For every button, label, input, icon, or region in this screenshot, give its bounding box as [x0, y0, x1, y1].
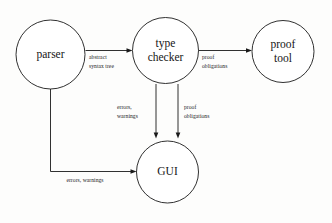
edge-label-ew-parser: errors, warnings	[66, 177, 103, 183]
node-type-checker[interactable]: type checker	[133, 18, 199, 84]
arrowhead-icon	[127, 48, 133, 53]
edge-label-ast-line1: abstract	[89, 54, 107, 60]
node-gui-label: GUI	[157, 165, 178, 177]
edge-label-abstract-syntax-tree: abstract syntax tree	[89, 54, 114, 69]
edge-label-po-tool-line2: obligations	[202, 63, 227, 69]
arrowhead-icon	[154, 133, 159, 139]
edge-parser-to-gui	[51, 89, 137, 174]
node-gui[interactable]: GUI	[137, 141, 199, 203]
edge-label-ast-line2: syntax tree	[89, 63, 114, 69]
node-proof-tool[interactable]: proof tool	[252, 21, 314, 83]
diagram-svg: parser type checker proof tool GUI abstr…	[0, 0, 332, 223]
edge-label-po-gui-line1: proof	[184, 104, 196, 110]
edge-label-po-gui-line2: obligations	[184, 113, 209, 119]
edge-type-checker-to-proof-tool	[198, 48, 252, 53]
arrowhead-icon	[246, 48, 252, 53]
diagram-canvas: parser type checker proof tool GUI abstr…	[0, 0, 332, 223]
edge-label-proof-obligations-gui: proof obligations	[184, 104, 209, 119]
node-parser-label: parser	[36, 48, 64, 61]
edge-label-errors-warnings-tc: errors, warnings	[117, 104, 138, 119]
node-type-checker-label-line2: checker	[148, 51, 184, 63]
node-proof-tool-label-line2: tool	[274, 52, 292, 64]
node-proof-tool-label-line1: proof	[271, 38, 296, 51]
edge-parser-to-type-checker	[86, 48, 133, 53]
node-type-checker-label-line1: type	[156, 37, 176, 50]
edge-label-ew-tc-line1: errors,	[117, 104, 132, 110]
edge-type-checker-to-gui-errors	[154, 84, 159, 139]
edge-path-parser-gui	[51, 89, 134, 172]
node-parser[interactable]: parser	[16, 20, 85, 89]
arrowhead-icon	[176, 133, 181, 139]
edge-type-checker-to-gui-obligations	[176, 84, 181, 139]
arrowhead-icon	[131, 169, 137, 174]
edge-label-ew-tc-line2: warnings	[117, 113, 138, 119]
edge-label-proof-obligations-tool: proof obligations	[202, 54, 227, 69]
edge-label-po-tool-line1: proof	[202, 54, 214, 60]
edge-label-errors-warnings-parser: errors, warnings	[66, 177, 103, 183]
